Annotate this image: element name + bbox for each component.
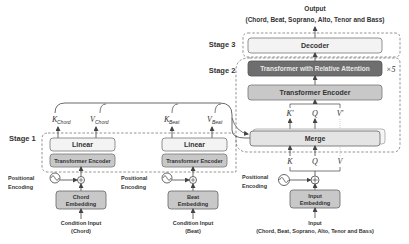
vprime-label: V' bbox=[337, 109, 344, 118]
beat-linear-label: Linear bbox=[184, 141, 205, 148]
k-chord-sub: Chord bbox=[57, 119, 71, 125]
main-pe-line2: Encoding bbox=[242, 183, 267, 189]
beat-pe-line1: Positional bbox=[121, 175, 148, 181]
main-input-line2: (Chord, Beat, Soprano, Alto, Tenor and B… bbox=[256, 228, 374, 234]
architecture-diagram: Output (Chord, Beat, Soprano, Alto, Teno… bbox=[0, 0, 409, 244]
chord-embedding-line2: Embedding bbox=[66, 201, 97, 207]
chord-input-line2: (Chord) bbox=[71, 228, 91, 234]
output-title: Output bbox=[304, 5, 326, 13]
kprime-label: K' bbox=[285, 109, 293, 118]
beat-input-line2: (Beat) bbox=[185, 228, 201, 234]
decoder-label: Decoder bbox=[301, 42, 329, 49]
v-chord-sub: Chord bbox=[95, 119, 109, 125]
v-label: V bbox=[338, 157, 344, 166]
stage3-label: Stage 3 bbox=[209, 40, 236, 49]
chord-linear-label: Linear bbox=[72, 141, 93, 148]
merge-label: Merge bbox=[305, 135, 326, 143]
input-embedding-line1: Input bbox=[308, 193, 322, 199]
output-subtitle: (Chord, Beat, Soprano, Alto, Tenor and B… bbox=[245, 16, 384, 24]
stage1-label: Stage 1 bbox=[9, 134, 36, 143]
repeat-count: ×5 bbox=[386, 65, 395, 74]
main-input-line1: Input bbox=[308, 220, 322, 226]
chord-encoder-label: Transformer Encoder bbox=[54, 158, 111, 164]
beat-pe-line2: Encoding bbox=[121, 184, 146, 190]
kqv-bracket bbox=[290, 167, 340, 171]
input-embedding-line2: Embedding bbox=[300, 200, 331, 206]
stage2-encoder-label: Transformer Encoder bbox=[280, 89, 351, 96]
kqv-prime-bracket bbox=[290, 104, 340, 108]
chord-embedding-line1: Chord bbox=[73, 194, 90, 200]
stage2-label: Stage 2 bbox=[209, 66, 236, 75]
beat-input-line1: Condition Input bbox=[173, 220, 214, 226]
chord-pe-line2: Encoding bbox=[8, 184, 33, 190]
chord-input-line1: Condition Input bbox=[61, 220, 102, 226]
chord-pe-line1: Positional bbox=[8, 175, 35, 181]
beat-embedding-line2: Embedding bbox=[178, 201, 209, 207]
kv-merge-arrow bbox=[232, 118, 248, 134]
beat-encoder-label: Transformer Encoder bbox=[166, 158, 223, 164]
q-label: Q bbox=[312, 157, 318, 166]
beat-embedding-line1: Beat bbox=[187, 194, 199, 200]
q-top-label: Q bbox=[312, 109, 318, 118]
main-pe-line1: Positional bbox=[242, 174, 269, 180]
relative-attention-label: Transformer with Relative Attention bbox=[260, 65, 370, 72]
k-beat-sub: Beat bbox=[169, 119, 180, 125]
v-beat-sub: Beat bbox=[212, 119, 223, 125]
k-label: K bbox=[286, 157, 293, 166]
